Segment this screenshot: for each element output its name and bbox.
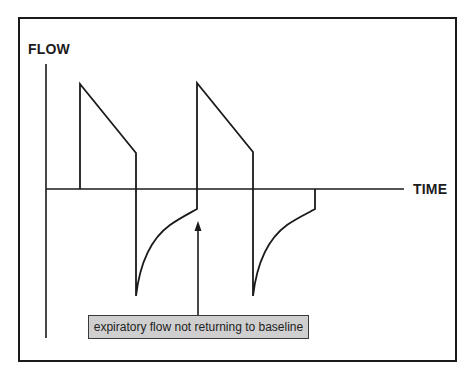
breath-1-waveform [80, 84, 197, 296]
time-axis-label: TIME [413, 181, 447, 197]
annotation-callout: expiratory flow not returning to baselin… [88, 315, 309, 339]
callout-text: expiratory flow not returning to baselin… [94, 320, 303, 334]
arrowhead-up-icon [195, 221, 202, 231]
flow-time-diagram: FLOW TIME expiratory flow not returning … [0, 0, 475, 386]
flow-axis-label: FLOW [28, 41, 70, 57]
